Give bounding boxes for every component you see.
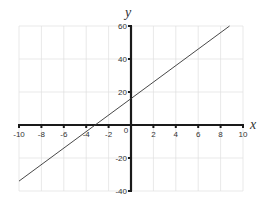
axes <box>19 26 243 191</box>
y-tick-label: 20 <box>118 88 127 97</box>
x-tick-label: 0 <box>124 126 129 135</box>
x-tick-label: 6 <box>196 130 201 139</box>
y-tick-label: -40 <box>115 187 127 196</box>
x-tick-label: 8 <box>218 130 223 139</box>
line-chart: -10-8-6-4-20246810-40-20204060 x y <box>0 0 269 203</box>
x-tick-label: 10 <box>239 130 248 139</box>
x-tick-label: -8 <box>38 130 46 139</box>
x-tick-label: -6 <box>60 130 68 139</box>
y-tick-label: 60 <box>118 22 127 31</box>
y-axis-label: y <box>123 5 132 20</box>
x-tick-label: -2 <box>105 130 113 139</box>
x-tick-label: -10 <box>13 130 25 139</box>
y-tick-label: 40 <box>118 55 127 64</box>
y-tick-label: -20 <box>115 154 127 163</box>
x-tick-label: 2 <box>151 130 156 139</box>
x-axis-label: x <box>249 117 257 132</box>
x-tick-label: 4 <box>174 130 179 139</box>
